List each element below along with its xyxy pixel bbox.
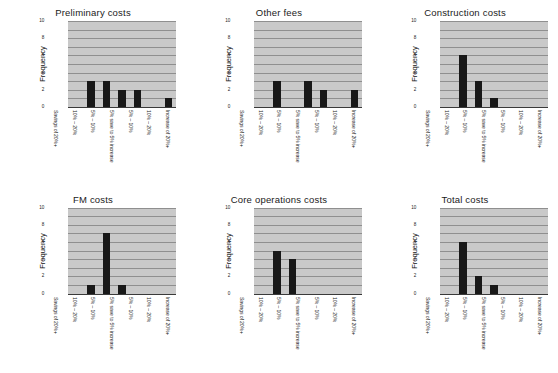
x-tick-label: 10% – 20% <box>517 110 522 135</box>
y-tick-label: 0 <box>42 291 44 296</box>
x-label-slot: 5% – 10% <box>306 107 325 177</box>
x-tick-label: Increase of 20%+ <box>536 110 541 148</box>
chart-title: FM costs <box>0 187 186 208</box>
y-tick-label: 0 <box>228 105 230 110</box>
x-label-slot: 10% – 20% <box>511 294 530 364</box>
x-label-slot: 5% – 10% <box>120 107 139 177</box>
x-tick-label: Increase of 20%+ <box>164 297 169 335</box>
x-tick-label: 5% – 10% <box>462 297 467 319</box>
x-axis-labels: Savings of 20%+10% – 20%5% – 10%5% save … <box>232 294 362 364</box>
chart-panel: FM costsFrequency0246810Savings of 20%+1… <box>0 187 186 373</box>
x-label-slot: 10% – 20% <box>139 107 158 177</box>
x-label-slot: Savings of 20%+ <box>232 294 251 364</box>
bar-series <box>68 21 176 107</box>
bar-slot <box>99 208 114 294</box>
y-axis-ticks: 0246810 <box>406 208 417 294</box>
x-tick-label: 5% save to 5% increase <box>294 110 299 162</box>
bar-slot <box>161 21 176 107</box>
plot-canvas <box>68 21 176 108</box>
x-tick-label: 5% – 10% <box>127 110 132 132</box>
chart-panel: Other feesFrequency0246810Savings of 20%… <box>186 0 372 187</box>
bar-slot <box>517 208 532 294</box>
bar <box>134 90 141 107</box>
x-label-slot: 5% – 10% <box>120 294 139 364</box>
bar-slot <box>99 21 114 107</box>
chart-panel: Preliminary costsFrequency0246810Savings… <box>0 0 186 187</box>
x-axis-labels: Savings of 20%+10% – 20%5% – 10%5% save … <box>232 107 362 177</box>
chart-title: Other fees <box>186 0 372 21</box>
bar-slot <box>269 21 284 107</box>
x-tick-label: 10% – 20% <box>443 110 448 135</box>
x-tick-label: 5% save to 5% increase <box>480 297 485 349</box>
x-axis-labels: Savings of 20%+10% – 20%5% – 10%5% save … <box>46 294 176 364</box>
bar-slot <box>161 208 176 294</box>
bar-slot <box>471 208 486 294</box>
bar-slot <box>68 21 83 107</box>
bar <box>459 242 466 294</box>
bar-series <box>254 208 362 294</box>
bar-slot <box>455 21 470 107</box>
y-tick-label: 8 <box>228 222 230 227</box>
y-axis-ticks: 0246810 <box>406 21 417 107</box>
x-label-slot: Increase of 20%+ <box>343 107 362 177</box>
y-tick-label: 8 <box>42 36 44 41</box>
bar-slot <box>502 21 517 107</box>
bar-slot <box>254 21 269 107</box>
bar <box>320 90 327 107</box>
x-tick-label: 10% – 20% <box>331 110 336 135</box>
bar <box>351 90 358 107</box>
bar-slot <box>285 21 300 107</box>
plot-canvas <box>68 208 176 295</box>
chart-panel: Core operations costsFrequency0246810Sav… <box>186 187 372 373</box>
x-label-slot: 5% – 10% <box>269 107 288 177</box>
y-tick-label: 8 <box>414 222 416 227</box>
bar-slot <box>83 208 98 294</box>
bar <box>87 81 94 107</box>
bar-slot <box>269 208 284 294</box>
x-label-slot: 5% – 10% <box>492 107 511 177</box>
x-tick-label: 10% – 20% <box>331 297 336 322</box>
y-tick-label: 2 <box>42 88 44 93</box>
bar-series <box>440 21 548 107</box>
y-tick-label: 0 <box>228 291 230 296</box>
x-label-slot: 5% – 10% <box>455 107 474 177</box>
y-tick-label: 4 <box>228 257 230 262</box>
x-axis-labels: Savings of 20%+10% – 20%5% – 10%5% save … <box>418 294 548 364</box>
x-tick-label: Savings of 20%+ <box>53 297 58 334</box>
y-tick-label: 4 <box>414 257 416 262</box>
x-label-slot: Savings of 20%+ <box>418 294 437 364</box>
plot-canvas <box>254 21 362 108</box>
x-tick-label: 10% – 20% <box>145 297 150 322</box>
y-tick-label: 0 <box>42 105 44 110</box>
bar-slot <box>130 21 145 107</box>
y-tick-label: 6 <box>228 240 230 245</box>
y-tick-label: 2 <box>228 274 230 279</box>
bar-slot <box>347 21 362 107</box>
x-label-slot: Savings of 20%+ <box>232 107 251 177</box>
x-label-slot: 5% – 10% <box>455 294 474 364</box>
x-tick-label: 5% – 10% <box>90 110 95 132</box>
chart-title: Total costs <box>372 187 558 208</box>
y-tick-label: 2 <box>414 274 416 279</box>
x-tick-label: Increase of 20%+ <box>164 110 169 148</box>
bar <box>118 285 125 294</box>
x-label-slot: 10% – 20% <box>437 294 456 364</box>
y-tick-label: 10 <box>411 205 416 210</box>
x-label-slot: 10% – 20% <box>65 107 84 177</box>
x-label-slot: 5% save to 5% increase <box>102 107 121 177</box>
x-tick-label: 5% – 10% <box>499 297 504 319</box>
x-label-slot: 5% – 10% <box>492 294 511 364</box>
bar-slot <box>440 21 455 107</box>
bar <box>103 81 110 107</box>
x-label-slot: 5% – 10% <box>83 294 102 364</box>
chart-grid: Preliminary costsFrequency0246810Savings… <box>0 0 558 373</box>
x-label-slot: 5% save to 5% increase <box>474 294 493 364</box>
x-tick-label: 5% – 10% <box>313 297 318 319</box>
y-tick-label: 10 <box>225 205 230 210</box>
bar-slot <box>83 21 98 107</box>
y-tick-label: 4 <box>228 70 230 75</box>
bar <box>490 98 497 107</box>
bar <box>490 285 497 294</box>
bar-series <box>440 208 548 294</box>
y-tick-label: 10 <box>39 19 44 24</box>
